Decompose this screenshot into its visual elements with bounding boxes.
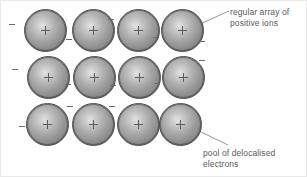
leader-line-bottom: [197, 130, 228, 145]
positive-charge-icon: [41, 26, 50, 35]
metallic-bonding-diagram: regular array of positive ions pool of d…: [0, 0, 307, 177]
electron-2: [66, 39, 72, 40]
ion-r3-c2: [72, 103, 115, 146]
positive-charge-icon: [135, 73, 144, 82]
label-regular-array-of-positive-ions: regular array of positive ions: [230, 7, 289, 28]
label-pool-of-delocalised-electrons: pool of delocalised electrons: [203, 148, 275, 169]
electron-1: [9, 24, 15, 25]
electron-5: [199, 41, 205, 42]
ion-r3-c3: [117, 103, 160, 146]
ion-r3-c4: [159, 103, 202, 146]
electron-6: [12, 69, 18, 70]
positive-charge-icon: [134, 26, 143, 35]
electron-10: [199, 60, 205, 61]
positive-charge-icon: [176, 120, 185, 129]
positive-charge-icon: [90, 73, 99, 82]
ion-r1-c3: [117, 9, 160, 52]
positive-charge-icon: [89, 120, 98, 129]
electron-4: [153, 37, 159, 38]
positive-charge-icon: [89, 26, 98, 35]
positive-charge-icon: [43, 120, 52, 129]
electron-11: [19, 126, 25, 127]
electron-3: [108, 19, 114, 20]
positive-charge-icon: [44, 73, 53, 82]
electron-9: [154, 83, 160, 84]
ion-r3-c1: [26, 103, 69, 146]
ion-r1-c1: [24, 9, 67, 52]
ion-r1-c2: [72, 9, 115, 52]
positive-charge-icon: [134, 120, 143, 129]
electron-8: [110, 85, 116, 86]
ion-r2-c3: [118, 56, 161, 99]
electron-12: [67, 106, 73, 107]
electron-7: [65, 84, 71, 85]
ion-r2-c4: [162, 56, 205, 99]
leader-line-top: [200, 11, 229, 24]
ion-r2-c1: [27, 56, 70, 99]
ion-r1-c4: [161, 9, 204, 52]
electron-13: [109, 106, 115, 107]
positive-charge-icon: [179, 73, 188, 82]
ion-r2-c2: [73, 56, 116, 99]
positive-charge-icon: [178, 26, 187, 35]
